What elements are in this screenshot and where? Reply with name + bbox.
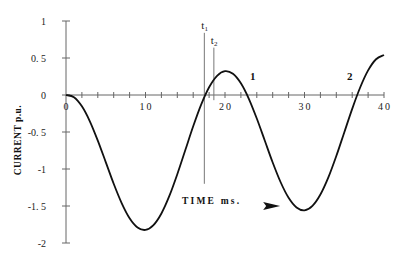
marker-label-t1: t1 bbox=[201, 19, 208, 33]
y-axis-title: CURRENT p.u. bbox=[13, 105, 23, 176]
x-axis-title: TIME ms. bbox=[182, 196, 241, 206]
x-axis: 01 02 03 04 0 bbox=[64, 92, 391, 112]
y-tick-label: -2 bbox=[38, 238, 46, 249]
y-tick-label: -1. 5 bbox=[28, 201, 46, 212]
curve-label-1: 1 bbox=[250, 70, 256, 82]
y-tick-label: 0. 5 bbox=[31, 53, 46, 64]
x-tick-label: 0 bbox=[64, 101, 69, 112]
x-tick-label: 3 0 bbox=[298, 101, 310, 112]
time-markers: t1t2 bbox=[201, 19, 218, 184]
curve-annotations: 12 bbox=[250, 70, 353, 82]
time-arrow-icon bbox=[263, 202, 280, 210]
x-tick-label: 1 0 bbox=[139, 101, 151, 112]
curve-label-2: 2 bbox=[347, 70, 353, 82]
current-vs-time-chart: 10. 50-0. 5-1-1. 5-2 01 02 03 04 0 t1t2 … bbox=[0, 0, 400, 255]
y-tick-label: -1 bbox=[38, 164, 46, 175]
y-tick-label: -0. 5 bbox=[28, 127, 46, 138]
marker-label-t2: t2 bbox=[211, 34, 218, 48]
y-tick-label: 1 bbox=[41, 16, 46, 27]
x-tick-label: 4 0 bbox=[378, 101, 390, 112]
y-axis: 10. 50-0. 5-1-1. 5-2 bbox=[28, 16, 70, 249]
y-tick-label: 0 bbox=[41, 90, 46, 101]
x-tick-label: 2 0 bbox=[219, 101, 231, 112]
